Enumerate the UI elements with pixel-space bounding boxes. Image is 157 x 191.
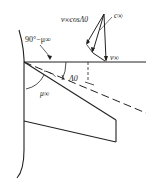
c-inf-leader — [100, 17, 112, 30]
label-sweep-angle: Λ0 — [69, 75, 78, 83]
label-normal-component: v∞cosΛ0 — [61, 16, 88, 24]
arrow-head-diag — [91, 47, 95, 53]
label-freestream-velocity: v∞ — [110, 54, 119, 62]
vector-bottom — [93, 53, 105, 61]
wing-diagram — [0, 0, 157, 191]
fuselage-outline — [17, 30, 24, 178]
vector-c-inf — [104, 14, 106, 60]
mach-angle-arc — [26, 75, 44, 89]
arrow-head — [47, 55, 52, 60]
angle-label-leader — [40, 45, 50, 57]
wing-leading-edge — [24, 62, 116, 120]
mach-line-dashed — [24, 62, 146, 113]
vector-diag — [93, 14, 104, 51]
label-angle-complement: 90°−μ∞ — [25, 36, 51, 44]
label-mach-angle: μ∞ — [40, 90, 49, 98]
wing-trailing-edge — [24, 121, 116, 142]
label-speed-of-sound: c∞ — [114, 12, 123, 20]
arrow-head-vcos — [86, 39, 90, 45]
normal-leader-foot — [85, 82, 94, 85]
